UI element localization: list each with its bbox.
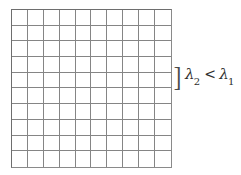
lambda-first-subscript: 1 [228,76,235,87]
grid-cell [123,57,139,73]
grid-cell [91,151,107,167]
grid-cell [123,73,139,89]
grid-cell [91,136,107,152]
grid-cell [76,73,92,89]
grid-cell [60,57,76,73]
grid-cell [44,57,60,73]
grid-cell [139,104,155,120]
grid-cell [155,104,171,120]
grid-cell [60,120,76,136]
grid-cell [123,151,139,167]
grid-cell [44,136,60,152]
grid-cell [91,26,107,42]
grid-cell [28,136,44,152]
grid-cell [123,104,139,120]
grid-cell [12,57,28,73]
grid-cell [107,10,123,26]
grid-cell [28,120,44,136]
grid-cell [12,104,28,120]
grid-cell [12,41,28,57]
grid-cell [28,104,44,120]
grid-cell [60,10,76,26]
grid-cell [139,41,155,57]
grid-cell [91,88,107,104]
grid-cell [139,73,155,89]
grid-cell [76,104,92,120]
eigenvalue-inequality-label: λ2<λ1 [185,64,236,90]
annotation-group: ] λ2<λ1 [173,64,236,90]
lattice-grid [11,9,172,168]
grid-cell [155,88,171,104]
grid-cell [28,151,44,167]
grid-cell [123,41,139,57]
grid-cell [76,88,92,104]
grid-cell [60,136,76,152]
grid-cell [12,136,28,152]
grid-cell [28,73,44,89]
grid-cell [44,73,60,89]
grid-cell [12,26,28,42]
grid-cell [91,73,107,89]
grid-cell [139,120,155,136]
grid-cell [44,26,60,42]
figure-root: ] λ2<λ1 [0,0,241,175]
grid-cell [76,10,92,26]
grid-cell [107,41,123,57]
grid-cell [139,10,155,26]
grid-cell [44,41,60,57]
grid-cell [107,57,123,73]
grid-cell [60,104,76,120]
grid-cell [60,41,76,57]
grid-cell [12,88,28,104]
right-square-bracket-icon: ] [174,65,182,89]
grid-cell [155,120,171,136]
less-than-relation: < [204,66,216,82]
grid-cell [107,26,123,42]
grid-cell [139,136,155,152]
grid-cell [123,88,139,104]
grid-cell [76,136,92,152]
grid-cell [60,26,76,42]
grid-cell [123,120,139,136]
grid-cell [91,120,107,136]
grid-cell [76,151,92,167]
grid-cell [107,120,123,136]
grid-cell [107,136,123,152]
grid-cell [155,10,171,26]
grid-cell [28,57,44,73]
grid-cell [44,10,60,26]
grid-cell [155,26,171,42]
grid-cell [123,26,139,42]
grid-cell [155,136,171,152]
grid-cell [76,120,92,136]
grid-cell [107,88,123,104]
grid-cell [155,151,171,167]
grid-cell [12,120,28,136]
grid-cell [139,151,155,167]
grid-cell [139,57,155,73]
grid-cell [76,41,92,57]
grid-cell [60,151,76,167]
grid-cell [44,104,60,120]
grid-cell [91,41,107,57]
grid-cell [44,120,60,136]
grid-cell [60,73,76,89]
grid-cell [60,88,76,104]
grid-cell [107,104,123,120]
lambda-second-subscript: 2 [194,76,201,87]
grid-cell [28,88,44,104]
grid-cell [107,73,123,89]
grid-cell [91,57,107,73]
grid-cell [139,88,155,104]
grid-cell [28,26,44,42]
grid-cell [107,151,123,167]
grid-cell [91,10,107,26]
grid-cell [123,10,139,26]
grid-cell [12,151,28,167]
grid-cell [12,73,28,89]
grid-cell [91,104,107,120]
grid-cell [44,88,60,104]
grid-cell [155,73,171,89]
grid-cell [123,136,139,152]
grid-cell [139,26,155,42]
